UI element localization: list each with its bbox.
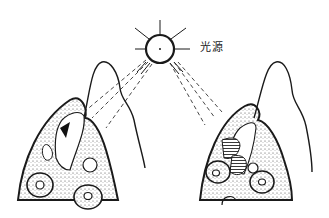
sun-icon xyxy=(135,20,190,74)
light-source-label: 光源 xyxy=(200,38,224,54)
diagram-canvas: 光源 xyxy=(0,0,329,218)
organism-right xyxy=(200,62,312,205)
light-rays-right xyxy=(170,62,222,125)
